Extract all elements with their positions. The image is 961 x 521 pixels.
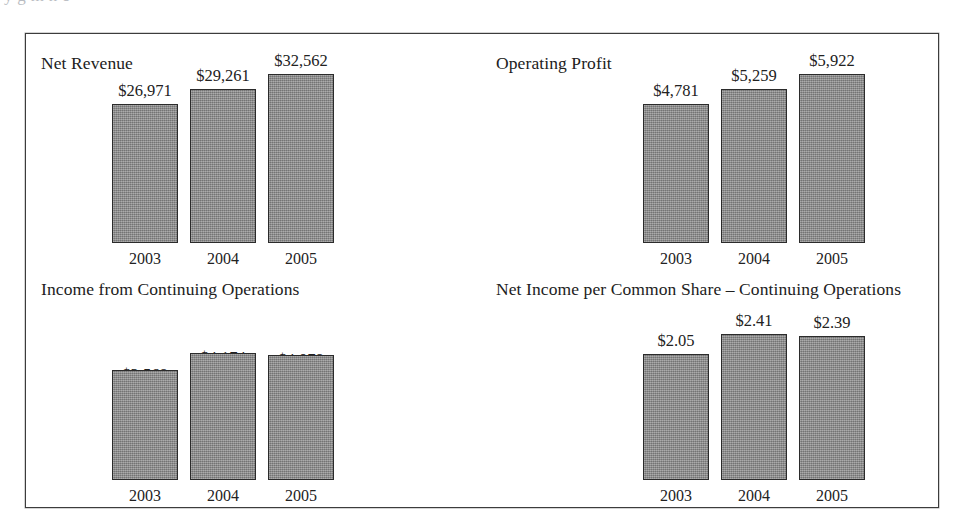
bar-group-2003: $3,568 2003 [112, 272, 178, 509]
bar-category-label: 2005 [785, 250, 879, 268]
plot-area-operating-profit: $4,781 2003 $5,259 2004 $5,922 2005 [483, 34, 940, 272]
chart-panel-eps-continuing: Net Income per Common Share – Continuing… [483, 272, 940, 509]
chart-frame: Net Revenue $26,971 2003 $29,261 2004 $3… [25, 33, 939, 508]
scan-top-text-sliver: y g m n o [0, 0, 961, 14]
bar-group-2005: $2.39 2005 [799, 272, 865, 509]
bar-group-2003: $2.05 2003 [643, 272, 709, 509]
bar-category-label: 2005 [785, 487, 879, 505]
bar[interactable] [112, 370, 178, 480]
bar[interactable] [112, 104, 178, 243]
bar-group-2004: $4,174 2004 [190, 272, 256, 509]
bar-value-label: $5,922 [785, 51, 879, 71]
bar[interactable] [643, 354, 709, 480]
bar-group-2005: $32,562 2005 [268, 34, 334, 272]
bar-category-label: 2005 [254, 487, 348, 505]
plot-area-net-revenue: $26,971 2003 $29,261 2004 $32,562 2005 [26, 34, 483, 272]
chart-panel-net-revenue: Net Revenue $26,971 2003 $29,261 2004 $3… [26, 34, 483, 272]
bar-group-2005: $5,922 2005 [799, 34, 865, 272]
bar-group-2003: $26,971 2003 [112, 34, 178, 272]
bar[interactable] [268, 355, 334, 480]
chart-panel-operating-profit: Operating Profit $4,781 2003 $5,259 2004… [483, 34, 940, 272]
bar-category-label: 2005 [254, 250, 348, 268]
bar[interactable] [190, 89, 256, 243]
bar[interactable] [799, 74, 865, 243]
plot-area-income-continuing: $3,568 2003 $4,174 2004 $4,078 2005 [26, 272, 483, 509]
bar-group-2004: $29,261 2004 [190, 34, 256, 272]
bar[interactable] [190, 353, 256, 480]
bar[interactable] [268, 74, 334, 243]
bar[interactable] [721, 89, 787, 243]
scan-top-text-sliver-label: y g m n o [4, 0, 71, 6]
bar[interactable] [799, 336, 865, 480]
bar[interactable] [643, 104, 709, 243]
bar-value-label: $32,562 [254, 51, 348, 71]
bar-group-2003: $4,781 2003 [643, 34, 709, 272]
chart-panel-income-continuing: Income from Continuing Operations $3,568… [26, 272, 483, 509]
bar-group-2004: $5,259 2004 [721, 34, 787, 272]
bar-value-label: $2.39 [785, 313, 879, 333]
bar[interactable] [721, 334, 787, 480]
plot-area-eps-continuing: $2.05 2003 $2.41 2004 $2.39 2005 [483, 272, 940, 509]
bar-group-2005: $4,078 2005 [268, 272, 334, 509]
bar-group-2004: $2.41 2004 [721, 272, 787, 509]
bar-value-label: $2.05 [629, 331, 723, 351]
